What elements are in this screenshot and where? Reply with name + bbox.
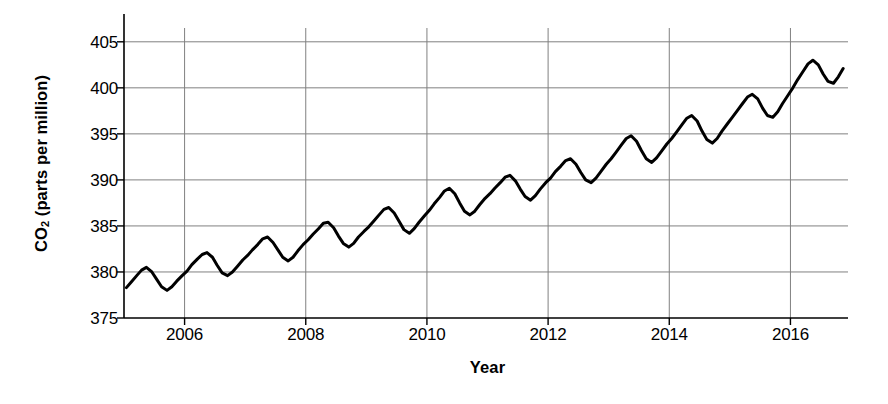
co2-data-line <box>126 60 843 290</box>
horizontal-gridlines <box>124 42 848 272</box>
co2-line-chart: CO2 (parts per million) 3753803853903954… <box>0 0 888 404</box>
y-axis-tick-marks <box>117 42 124 318</box>
vertical-gridlines <box>185 28 791 318</box>
x-axis-tick-marks <box>185 318 791 325</box>
plot-canvas <box>0 0 888 404</box>
